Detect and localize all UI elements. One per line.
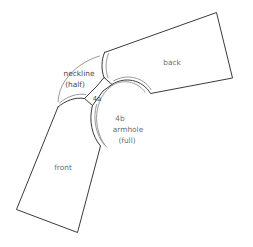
label-armhole-line2: (full) bbox=[118, 136, 135, 145]
label-front: front bbox=[54, 163, 72, 172]
pattern-drawing: back front neckline (half) 4a 4b armhole… bbox=[0, 0, 253, 247]
label-marker-4a: 4a bbox=[93, 95, 102, 103]
label-armhole-line1: armhole bbox=[113, 125, 144, 134]
label-neckline-line1: neckline bbox=[64, 69, 95, 78]
label-back: back bbox=[163, 58, 181, 67]
back-piece-outline bbox=[102, 13, 233, 94]
pattern-diagram: back front neckline (half) 4a 4b armhole… bbox=[0, 0, 253, 247]
label-neckline-line2: (half) bbox=[65, 80, 85, 89]
label-marker-4b: 4b bbox=[115, 114, 125, 123]
